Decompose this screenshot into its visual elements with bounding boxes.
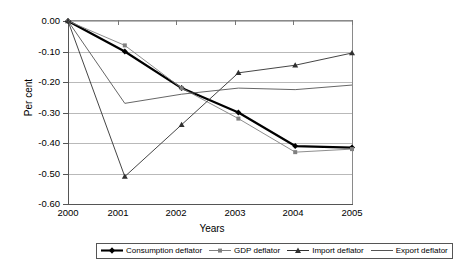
x-tick-label-2001: 2001	[95, 208, 141, 218]
y-tick-2	[63, 82, 68, 83]
legend-item-export-deflator[interactable]: Export deflator	[371, 246, 448, 255]
gridline-2	[68, 82, 352, 83]
data-point-gdp-deflator	[123, 43, 127, 47]
gridline-5	[68, 174, 352, 175]
consumption-deflator-marker-icon	[101, 246, 123, 255]
y-tick-label-4: -0.40	[8, 138, 60, 148]
gridline-1	[68, 52, 352, 53]
chart-title	[0, 0, 424, 6]
y-tick-1	[63, 52, 68, 53]
x-tick-2003	[235, 20, 236, 25]
gridline-3	[68, 113, 352, 114]
import-deflator-marker-icon	[287, 246, 309, 255]
legend-label-gdp-deflator: GDP deflator	[234, 247, 280, 255]
x-tick-label-2004: 2004	[270, 208, 316, 218]
data-point-import-deflator	[292, 62, 298, 67]
x-tick-label-2000: 2000	[45, 208, 91, 218]
series-line-export-deflator	[68, 21, 352, 103]
gdp-deflator-marker-icon	[209, 246, 231, 255]
export-deflator-marker-icon	[371, 246, 393, 255]
chart-legend: Consumption deflator GDP deflator Import…	[96, 243, 453, 259]
legend-label-consumption-deflator: Consumption deflator	[126, 247, 202, 255]
y-tick-label-3: -0.30	[8, 108, 60, 118]
series-line-import-deflator	[68, 21, 352, 177]
data-point-gdp-deflator	[293, 150, 297, 154]
data-point-gdp-deflator	[180, 86, 184, 90]
legend-item-consumption-deflator[interactable]: Consumption deflator	[101, 246, 202, 255]
plot-frame-top	[68, 20, 353, 21]
y-tick-0	[63, 21, 68, 22]
y-axis-title: Per cent	[23, 58, 34, 138]
x-tick-label-2003: 2003	[212, 208, 258, 218]
x-tick-2005	[352, 20, 353, 25]
legend-label-export-deflator: Export deflator	[396, 247, 448, 255]
gridline-0	[68, 21, 352, 22]
data-point-consumption-deflator	[179, 85, 185, 91]
data-point-import-deflator	[235, 70, 241, 75]
y-tick-3	[63, 113, 68, 114]
y-tick-label-2: -0.20	[8, 77, 60, 87]
series-line-gdp-deflator	[68, 21, 352, 152]
legend-label-import-deflator: Import deflator	[312, 247, 364, 255]
y-tick-label-0: 0.00	[8, 16, 60, 26]
x-tick-label-2002: 2002	[153, 208, 199, 218]
data-point-import-deflator	[179, 122, 185, 127]
series-line-consumption-deflator	[68, 21, 352, 148]
y-axis-line	[68, 20, 69, 205]
x-tick-2004	[293, 20, 294, 25]
data-point-gdp-deflator	[236, 117, 240, 121]
x-axis-title: Years	[152, 223, 272, 234]
y-tick-label-1: -0.10	[8, 47, 60, 57]
x-tick-2001	[118, 20, 119, 25]
legend-item-import-deflator[interactable]: Import deflator	[287, 246, 364, 255]
y-tick-4	[63, 143, 68, 144]
x-tick-2002	[176, 20, 177, 25]
plot-frame-right	[352, 20, 353, 205]
x-tick-label-2005: 2005	[329, 208, 375, 218]
y-tick-label-5: -0.50	[8, 169, 60, 179]
x-axis-line	[68, 204, 353, 205]
legend-item-gdp-deflator[interactable]: GDP deflator	[209, 246, 280, 255]
gridline-4	[68, 143, 352, 144]
y-tick-5	[63, 174, 68, 175]
y-tick-6	[63, 204, 68, 205]
